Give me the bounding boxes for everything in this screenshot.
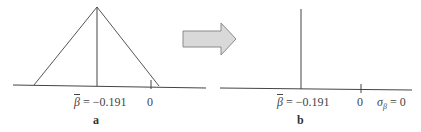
panel-a-mean-label: β = −0.191 — [74, 95, 127, 110]
panel-b-axis — [220, 88, 412, 90]
panel-b-caption: b — [297, 113, 304, 128]
panel-b-zero-label: 0 — [357, 95, 363, 110]
panel-b-mean-label: β = −0.191 — [277, 95, 330, 110]
panel-a-zero-label: 0 — [147, 95, 153, 110]
panel-a-caption: a — [93, 113, 99, 128]
transition-arrow-icon — [183, 23, 236, 55]
panel-a-axis — [13, 85, 206, 88]
panel-b-sigma-label: σβ = 0 — [377, 95, 406, 111]
diagram-canvas — [0, 0, 421, 132]
panel-a-graphic — [13, 7, 206, 89]
panel-b-graphic — [220, 9, 412, 93]
